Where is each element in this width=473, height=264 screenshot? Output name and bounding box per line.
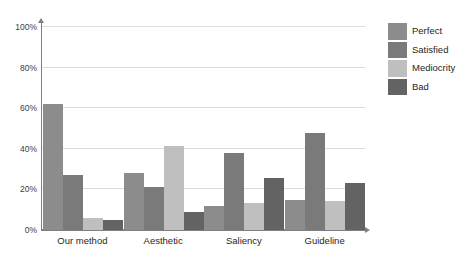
bar xyxy=(184,212,204,230)
legend-item[interactable]: Mediocrity xyxy=(388,58,472,77)
legend-item-label: Bad xyxy=(412,80,429,93)
y-tick-label-0: 0% xyxy=(1,226,37,235)
bar xyxy=(345,183,365,230)
legend-item-label: Satisfied xyxy=(412,43,448,56)
x-tick-label: Our method xyxy=(37,234,127,248)
legend-swatch-icon xyxy=(388,23,407,40)
x-axis-category-labels: Our methodAestheticSaliencyGuideline xyxy=(42,234,365,252)
y-axis-line xyxy=(41,22,42,231)
y-axis-arrow-icon xyxy=(38,18,44,23)
bar xyxy=(204,206,224,230)
chart-legend: PerfectSatisfiedMediocrityBad xyxy=(388,21,472,95)
bar-group xyxy=(124,27,204,230)
bar-group xyxy=(43,27,123,230)
bar xyxy=(244,203,264,230)
bar xyxy=(124,173,144,230)
legend-swatch-icon xyxy=(388,42,407,59)
legend-item[interactable]: Perfect xyxy=(388,21,472,40)
bar xyxy=(305,133,325,230)
legend-item-label: Mediocrity xyxy=(412,61,455,74)
bar xyxy=(325,201,345,230)
x-tick-label: Saliency xyxy=(199,234,289,248)
bar xyxy=(164,146,184,230)
x-axis-line xyxy=(41,230,366,231)
bar xyxy=(224,153,244,230)
bar-group xyxy=(204,27,284,230)
x-tick-label: Guideline xyxy=(280,234,370,248)
x-axis-arrow-icon xyxy=(365,227,370,233)
bar xyxy=(285,200,305,230)
plot-area xyxy=(42,27,365,230)
legend-item-label: Perfect xyxy=(412,24,442,37)
chart-figure: 0%20%40%60%80%100% Our methodAestheticSa… xyxy=(0,0,473,264)
legend-item[interactable]: Bad xyxy=(388,77,472,96)
legend-item[interactable]: Satisfied xyxy=(388,40,472,59)
y-axis-tick-labels: 0%20%40%60%80%100% xyxy=(0,27,37,230)
y-tick-label-20: 20% xyxy=(1,185,37,194)
bar xyxy=(43,104,63,230)
legend-swatch-icon xyxy=(388,79,407,96)
bar xyxy=(103,220,123,230)
bar xyxy=(63,175,83,230)
x-tick-label: Aesthetic xyxy=(118,234,208,248)
bar xyxy=(264,178,284,230)
y-tick-label-80: 80% xyxy=(1,63,37,72)
bar xyxy=(144,187,164,230)
bar-group xyxy=(285,27,365,230)
bar xyxy=(83,218,103,230)
y-tick-label-100: 100% xyxy=(1,23,37,32)
y-tick-label-60: 60% xyxy=(1,104,37,113)
legend-swatch-icon xyxy=(388,60,407,77)
y-tick-label-40: 40% xyxy=(1,145,37,154)
